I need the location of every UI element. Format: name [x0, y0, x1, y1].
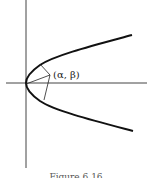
parabola-diagram — [0, 0, 152, 178]
figure-caption: Figure 6.16 — [0, 172, 152, 178]
point-label: (α, β) — [53, 69, 80, 80]
segment-radius — [40, 64, 50, 75]
segment-normal — [44, 75, 50, 100]
